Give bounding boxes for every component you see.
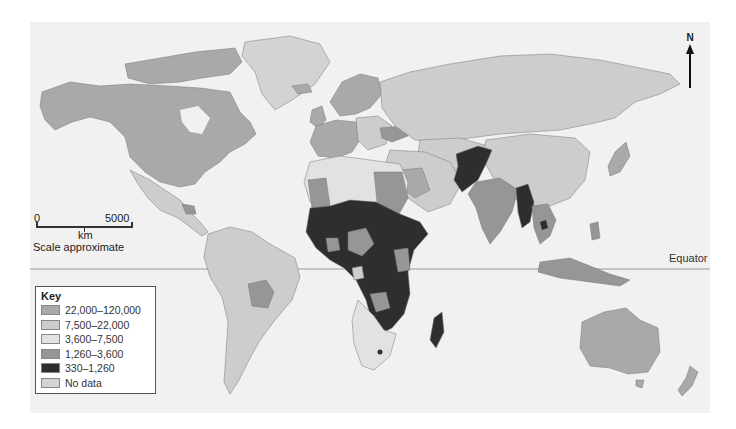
region-philippines [590, 222, 600, 240]
key-item: 22,000–120,000 [41, 303, 150, 318]
region-gabon [352, 266, 364, 280]
key-label: 22,000–120,000 [65, 304, 141, 316]
scale-bar: 0 5000 km Scale approximate [33, 212, 163, 254]
scale-end: 5000 [105, 212, 129, 224]
key-label: 7,500–22,000 [65, 319, 129, 331]
key-swatch [41, 363, 60, 373]
key-item: No data [41, 376, 150, 391]
key-item: 3,600–7,500 [41, 332, 150, 347]
equator-label: Equator [669, 252, 708, 264]
scale-note: Scale approximate [33, 241, 124, 253]
region-north-america [40, 82, 256, 187]
region-madagascar [430, 312, 444, 348]
scale-unit: km [78, 229, 93, 241]
region-lesotho [378, 350, 383, 355]
region-western-europe [310, 120, 360, 158]
region-new-zealand [678, 366, 698, 396]
region-canada-islands [125, 48, 242, 84]
region-india [468, 178, 518, 244]
key-swatch [41, 305, 60, 315]
key-swatch [41, 320, 60, 330]
region-russia [380, 54, 680, 142]
key-label: 3,600–7,500 [65, 333, 123, 345]
map-key: Key 22,000–120,000 7,500–22,000 3,600–7,… [35, 286, 156, 394]
north-label: N [682, 32, 698, 43]
key-swatch [41, 378, 60, 388]
key-label: 1,260–3,600 [65, 348, 123, 360]
key-swatch [41, 334, 60, 344]
key-item: 330–1,260 [41, 361, 150, 376]
region-morocco-mauritania [308, 178, 330, 208]
scale-tick-right [131, 222, 133, 228]
region-greenland [242, 36, 330, 110]
region-japan [608, 142, 630, 176]
region-south-america [204, 227, 300, 394]
key-item: 1,260–3,600 [41, 347, 150, 362]
key-label: 330–1,260 [65, 362, 115, 374]
region-tasmania [636, 380, 644, 388]
north-arrow: N [682, 32, 698, 90]
region-indonesia [538, 258, 630, 286]
region-ghana [326, 238, 340, 252]
region-australia [580, 308, 660, 374]
scale-tick-left [36, 222, 38, 228]
key-item: 7,500–22,000 [41, 318, 150, 333]
key-swatch [41, 349, 60, 359]
key-label: No data [65, 377, 102, 389]
north-arrow-icon [682, 44, 698, 90]
region-scandinavia [330, 74, 382, 116]
key-title: Key [41, 290, 150, 302]
